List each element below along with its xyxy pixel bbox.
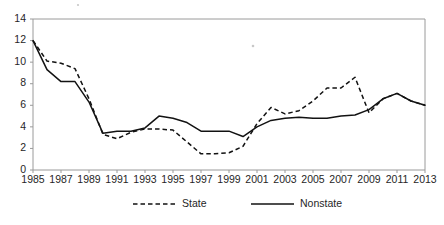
x-tick-label-2007: 2007 bbox=[329, 173, 353, 185]
x-tick-label-1999: 1999 bbox=[217, 173, 241, 185]
y-tick-label-10: 10 bbox=[14, 55, 26, 67]
chart-legend: StateNonstate bbox=[133, 197, 342, 209]
stray-speck bbox=[252, 45, 255, 48]
x-tick-label-1997: 1997 bbox=[189, 173, 213, 185]
x-tick-label-1995: 1995 bbox=[161, 173, 185, 185]
y-tick-label-8: 8 bbox=[20, 76, 26, 88]
y-tick-label-12: 12 bbox=[14, 33, 26, 45]
x-tick-label-1993: 1993 bbox=[133, 173, 157, 185]
x-tick-label-1991: 1991 bbox=[105, 173, 129, 185]
legend-label-state: State bbox=[182, 197, 207, 209]
stray-speck-top bbox=[77, 4, 79, 6]
legend-label-nonstate: Nonstate bbox=[300, 197, 342, 209]
x-tick-label-1987: 1987 bbox=[49, 173, 73, 185]
y-tick-label-2: 2 bbox=[20, 141, 26, 153]
series-line-nonstate bbox=[33, 41, 425, 137]
x-tick-label-1989: 1989 bbox=[77, 173, 101, 185]
y-tick-label-4: 4 bbox=[20, 120, 26, 132]
x-tick-label-2013: 2013 bbox=[413, 173, 437, 185]
line-chart: 02468101214 1985198719891991199319951997… bbox=[0, 0, 444, 225]
x-tick-label-1985: 1985 bbox=[21, 173, 45, 185]
series-line-state bbox=[33, 41, 425, 154]
y-tick-label-14: 14 bbox=[14, 12, 26, 24]
x-tick-label-2003: 2003 bbox=[273, 173, 297, 185]
x-tick-label-2005: 2005 bbox=[301, 173, 325, 185]
x-tick-label-2011: 2011 bbox=[386, 173, 409, 185]
x-tick-label-2001: 2001 bbox=[245, 173, 269, 185]
y-axis-tick-labels: 02468101214 bbox=[14, 12, 26, 175]
x-axis-tick-labels: 1985198719891991199319951997199920012003… bbox=[21, 173, 437, 185]
y-tick-label-6: 6 bbox=[20, 98, 26, 110]
chart-canvas: 02468101214 1985198719891991199319951997… bbox=[0, 0, 444, 225]
x-tick-label-2009: 2009 bbox=[357, 173, 381, 185]
